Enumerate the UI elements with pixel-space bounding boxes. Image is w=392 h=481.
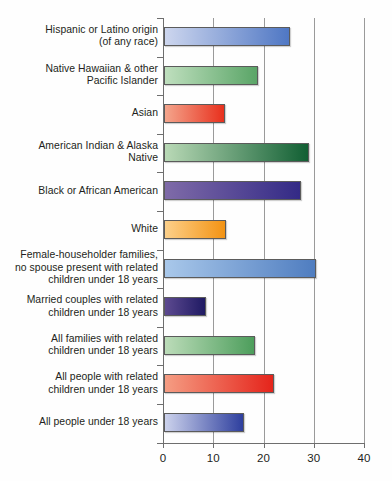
x-tick-30 — [314, 443, 315, 448]
x-tick-label-30: 30 — [294, 452, 334, 464]
y-tick — [157, 365, 163, 366]
y-tick — [157, 288, 163, 289]
category-label-line: All people under 18 years — [0, 416, 158, 429]
category-label-line: Married couples with related — [0, 294, 158, 307]
x-tick-10 — [213, 443, 214, 448]
category-label-line: All people with related — [0, 371, 158, 384]
category-label: All families with relatedchildren under … — [0, 333, 158, 358]
category-label-line: White — [0, 223, 158, 236]
y-tick — [157, 443, 163, 444]
bar — [164, 413, 244, 432]
category-label: All people under 18 years — [0, 416, 158, 429]
category-label: Black or African American — [0, 185, 158, 198]
bar — [164, 297, 206, 316]
category-label-line: Asian — [0, 107, 158, 120]
bar — [164, 66, 258, 85]
category-label-line: children under 18 years — [0, 384, 158, 397]
category-label: Married couples with relatedchildren und… — [0, 294, 158, 319]
x-tick-label-10: 10 — [193, 452, 233, 464]
bar — [164, 104, 225, 123]
category-label-line: Pacific Islander — [0, 75, 158, 88]
y-tick — [157, 327, 163, 328]
y-tick — [157, 95, 163, 96]
category-label-line: children under 18 years — [0, 274, 158, 287]
gridline-40 — [364, 18, 365, 443]
category-label-line: no spouse present with related — [0, 262, 158, 275]
gridline-30 — [314, 18, 315, 443]
bar — [164, 27, 290, 46]
category-label-line: (of any race) — [0, 36, 158, 49]
bar — [164, 143, 309, 162]
category-label: All people with relatedchildren under 18… — [0, 371, 158, 396]
x-tick-20 — [264, 443, 265, 448]
category-label: Asian — [0, 107, 158, 120]
x-tick-label-0: 0 — [143, 452, 183, 464]
y-tick — [157, 18, 163, 19]
bar — [164, 259, 316, 278]
category-label: American Indian & AlaskaNative — [0, 140, 158, 165]
category-label: Hispanic or Latino origin(of any race) — [0, 24, 158, 49]
category-label-line: children under 18 years — [0, 345, 158, 358]
bar — [164, 220, 226, 239]
category-label-line: American Indian & Alaska — [0, 140, 158, 153]
x-tick-0 — [163, 443, 164, 448]
bar — [164, 336, 255, 355]
category-label: White — [0, 223, 158, 236]
y-tick — [157, 57, 163, 58]
plot-area — [163, 18, 364, 443]
category-label-line: All families with related — [0, 333, 158, 346]
y-tick — [157, 172, 163, 173]
category-label-line: Female-householder families, — [0, 249, 158, 262]
bar — [164, 181, 301, 200]
x-tick-label-40: 40 — [344, 452, 384, 464]
category-label: Female-householder families,no spouse pr… — [0, 249, 158, 287]
x-tick-40 — [364, 443, 365, 448]
y-tick — [157, 211, 163, 212]
x-tick-label-20: 20 — [244, 452, 284, 464]
category-label-line: children under 18 years — [0, 307, 158, 320]
bar — [164, 374, 274, 393]
y-tick — [157, 404, 163, 405]
category-label-line: Native Hawaiian & other — [0, 63, 158, 76]
category-label-line: Hispanic or Latino origin — [0, 24, 158, 37]
category-label: Native Hawaiian & otherPacific Islander — [0, 63, 158, 88]
category-label-line: Native — [0, 152, 158, 165]
category-label-line: Black or African American — [0, 185, 158, 198]
bar-chart: 010203040 Hispanic or Latino origin(of a… — [0, 0, 392, 481]
y-tick — [157, 134, 163, 135]
